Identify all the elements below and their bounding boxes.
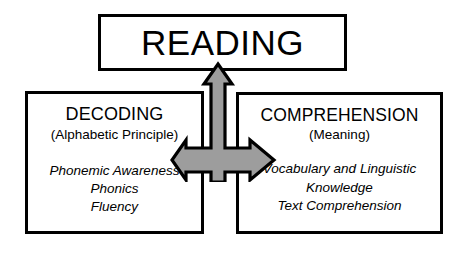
decoding-node-subheading: (Alphabetic Principle) (51, 128, 179, 143)
decoding-node: DECODING (Alphabetic Principle) Phonemic… (25, 91, 204, 234)
comprehension-node-subheading: (Meaning) (309, 128, 370, 143)
reading-model-diagram: READING DECODING (Alphabetic Principle) … (0, 0, 463, 253)
comprehension-node: COMPREHENSION (Meaning) Vocabulary and L… (236, 92, 443, 234)
decoding-detail-list: Phonemic Awareness Phonics Fluency (50, 162, 180, 217)
reading-node: READING (98, 14, 347, 71)
comprehension-detail-list: Vocabulary and Linguistic Knowledge Text… (263, 160, 416, 215)
comprehension-detail-item: Knowledge (263, 179, 416, 197)
decoding-detail-item: Phonics (50, 180, 180, 198)
reading-node-label: READING (141, 25, 304, 60)
comprehension-node-heading: COMPREHENSION (261, 106, 419, 124)
decoding-node-heading: DECODING (66, 105, 164, 124)
comprehension-detail-item: Text Comprehension (263, 197, 416, 215)
decoding-detail-item: Phonemic Awareness (50, 162, 180, 180)
decoding-detail-item: Fluency (50, 198, 180, 216)
decoding-node-content: DECODING (Alphabetic Principle) Phonemic… (28, 94, 201, 231)
comprehension-detail-item: Vocabulary and Linguistic (263, 160, 416, 178)
comprehension-node-content: COMPREHENSION (Meaning) Vocabulary and L… (239, 95, 440, 231)
